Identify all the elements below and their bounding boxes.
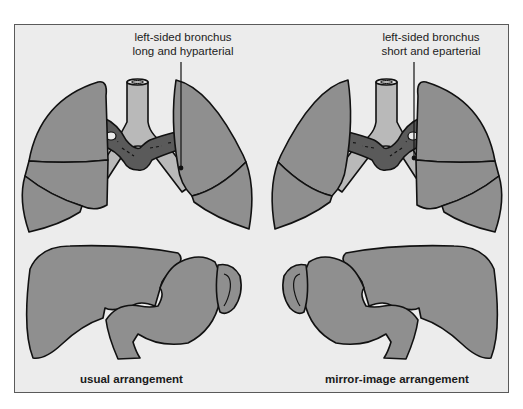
right-annotation: left-sided bronchus short and eparterial — [366, 30, 496, 58]
diagram-artwork — [0, 0, 523, 409]
left-annotation-line2: long and hyparterial — [118, 44, 248, 58]
right-annotation-line2: short and eparterial — [366, 44, 496, 58]
left-annotation-line1: left-sided bronchus — [118, 30, 248, 44]
right-annotation-line1: left-sided bronchus — [366, 30, 496, 44]
right-caption: mirror-image arrangement — [325, 373, 469, 385]
usual-thorax — [22, 62, 252, 359]
spleen — [216, 264, 241, 313]
left-caption: usual arrangement — [80, 373, 183, 385]
left-annotation: left-sided bronchus long and hyparterial — [118, 30, 248, 58]
mirror-thorax — [272, 62, 502, 359]
right-lung-upper — [29, 82, 108, 163]
